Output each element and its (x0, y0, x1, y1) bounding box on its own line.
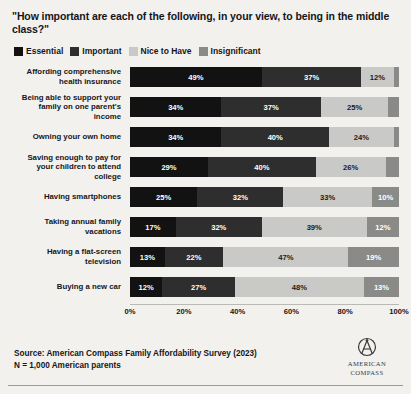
legend-swatch-icon (129, 47, 138, 56)
category-label: Being able to support your family on one… (12, 93, 130, 122)
bar-segment: 37% (221, 97, 321, 117)
bar-segment: 39% (262, 217, 367, 237)
x-tick-label: 100% (389, 307, 408, 316)
legend-item-label: Insignificant (211, 46, 261, 56)
bar-segment: 29% (130, 157, 208, 177)
category-label: Saving enough to pay for your children t… (12, 153, 130, 182)
x-tick-label: 20% (176, 307, 191, 316)
bar-segment: 12% (367, 217, 399, 237)
category-label: Buying a new car (12, 282, 130, 292)
chart-row: Being able to support your family on one… (12, 96, 399, 118)
chart-row: Affording comprehensive health insurance… (12, 66, 399, 88)
compass-monogram-icon (339, 335, 395, 359)
bottom-divider (8, 385, 403, 386)
x-tick-label: 40% (230, 307, 245, 316)
bar-segment: 12% (361, 67, 393, 87)
logo-line-2: COMPASS (339, 369, 395, 376)
bar-segment (386, 157, 399, 177)
bar-segment: 22% (165, 247, 224, 267)
category-label: Affording comprehensive health insurance (12, 67, 130, 86)
x-axis-ticks: 0%20%40%60%80%100% (130, 305, 399, 318)
bar-segment: 48% (235, 277, 364, 297)
bar-segment: 19% (348, 247, 399, 267)
chart-row: Taking annual family vacations17%32%39%1… (12, 216, 399, 238)
source-line: Source: American Compass Family Affordab… (14, 348, 257, 360)
x-tick-label: 0% (125, 307, 136, 316)
bar-segment: 34% (130, 127, 221, 147)
bar-segment: 25% (321, 97, 388, 117)
bar-segment: 12% (130, 277, 162, 297)
chart-page: "How important are each of the following… (0, 0, 411, 394)
stacked-bar: 34%40%24% (130, 127, 399, 147)
chart-plot-area: Affording comprehensive health insurance… (12, 66, 399, 298)
bar-segment: 26% (316, 157, 386, 177)
bar-segment: 27% (162, 277, 235, 297)
legend-item-label: Important (82, 46, 121, 56)
bar-segment: 32% (197, 187, 283, 207)
stacked-bar: 49%37%12% (130, 67, 399, 87)
american-compass-logo: AMERICAN COMPASS (339, 335, 395, 376)
bar-segment: 49% (130, 67, 262, 87)
stacked-bar: 34%37%25% (130, 97, 399, 117)
x-tick-label: 60% (284, 307, 299, 316)
chart-legend: EssentialImportantNice to HaveInsignific… (14, 46, 399, 56)
bar-segment: 25% (130, 187, 197, 207)
sample-size-line: N = 1,000 American parents (14, 360, 257, 372)
bar-segment: 17% (130, 217, 176, 237)
bar-segment: 47% (223, 247, 348, 267)
legend-item-label: Essential (26, 46, 63, 56)
bar-segment: 13% (364, 277, 399, 297)
chart-row: Having a flat-screen television13%22%47%… (12, 246, 399, 268)
bar-segment: 40% (208, 157, 316, 177)
category-label: Having smartphones (12, 192, 130, 202)
bar-segment: 37% (262, 67, 362, 87)
bar-segment (388, 97, 399, 117)
category-label: Having a flat-screen television (12, 247, 130, 266)
bar-segment: 24% (329, 127, 394, 147)
bar-segment: 10% (372, 187, 399, 207)
axis-line-wrap: 0%20%40%60%80%100% (130, 304, 399, 318)
legend-item-3: Insignificant (199, 46, 261, 56)
logo-line-1: AMERICAN (339, 360, 395, 367)
bar-segment (394, 67, 399, 87)
legend-item-1: Important (70, 46, 121, 56)
bar-segment (394, 127, 399, 147)
legend-swatch-icon (14, 47, 23, 56)
x-axis: 0%20%40%60%80%100% (12, 304, 399, 318)
footer-note: Source: American Compass Family Affordab… (14, 348, 257, 372)
bar-segment: 32% (176, 217, 262, 237)
stacked-bar: 17%32%39%12% (130, 217, 399, 237)
bar-segment: 40% (221, 127, 329, 147)
bar-segment: 13% (130, 247, 165, 267)
category-label: Taking annual family vacations (12, 217, 130, 236)
legend-item-0: Essential (14, 46, 63, 56)
bar-segment: 34% (130, 97, 221, 117)
stacked-bar: 25%32%33%10% (130, 187, 399, 207)
legend-swatch-icon (199, 47, 208, 56)
stacked-bar: 12%27%48%13% (130, 277, 399, 297)
chart-title: "How important are each of the following… (12, 10, 404, 36)
category-label: Owning your own home (12, 132, 130, 142)
stacked-bar: 13%22%47%19% (130, 247, 399, 267)
chart-row: Owning your own home34%40%24% (12, 126, 399, 148)
stacked-bar: 29%40%26% (130, 157, 399, 177)
legend-swatch-icon (70, 47, 79, 56)
legend-item-2: Nice to Have (129, 46, 192, 56)
chart-row: Buying a new car12%27%48%13% (12, 276, 399, 298)
x-tick-label: 80% (338, 307, 353, 316)
legend-item-label: Nice to Have (141, 46, 192, 56)
axis-left-pad (12, 304, 130, 318)
chart-row: Having smartphones25%32%33%10% (12, 186, 399, 208)
chart-row: Saving enough to pay for your children t… (12, 156, 399, 178)
bar-segment: 33% (283, 187, 372, 207)
